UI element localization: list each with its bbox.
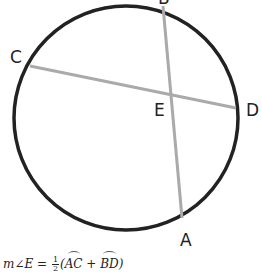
arc-ac: AC: [65, 257, 83, 271]
circle-diagram: B C E D A: [0, 0, 262, 279]
one-half-fraction: 12: [52, 256, 59, 273]
label-d: D: [246, 100, 259, 120]
angle-formula: m∠E = 12(AC + BD): [3, 256, 123, 273]
chord-ba: [163, 6, 182, 218]
label-a: A: [180, 230, 192, 250]
label-e: E: [154, 100, 165, 120]
circle: [14, 6, 238, 230]
label-c: C: [10, 47, 22, 67]
chord-cd: [30, 66, 236, 108]
arc-bd: BD: [100, 257, 118, 271]
label-b: B: [158, 0, 170, 8]
formula-lhs: m∠E =: [3, 257, 51, 271]
